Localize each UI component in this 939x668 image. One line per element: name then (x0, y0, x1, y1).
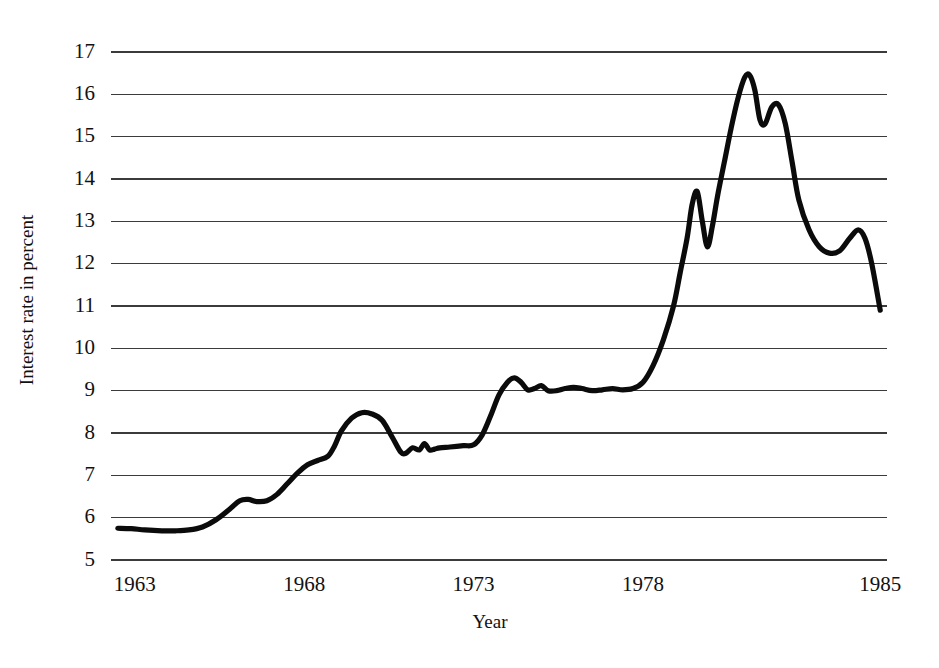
y-axis-title: Interest rate in percent (16, 214, 37, 385)
y-axis-tick-label: 14 (74, 166, 96, 190)
y-axis-tick-label: 8 (85, 420, 96, 444)
y-axis-tick-label: 5 (85, 547, 96, 571)
interest-rate-line-chart: 567891011121314151617 196319681973197819… (0, 0, 939, 668)
y-axis-tick-label: 6 (85, 504, 96, 528)
y-axis-tick-label: 16 (74, 81, 95, 105)
chart-container: 567891011121314151617 196319681973197819… (0, 0, 939, 668)
x-axis-tick-label: 1985 (859, 572, 901, 596)
x-axis-tick-label: 1968 (283, 572, 325, 596)
y-axis-tick-label: 7 (85, 462, 96, 486)
y-axis-tick-labels: 567891011121314151617 (74, 39, 96, 571)
x-axis-tick-label: 1978 (622, 572, 664, 596)
y-axis-tick-label: 9 (85, 377, 96, 401)
y-axis-tick-label: 15 (74, 123, 95, 147)
gridlines (111, 52, 887, 560)
x-axis-title: Year (472, 611, 508, 632)
y-axis-tick-label: 13 (74, 208, 95, 232)
y-axis-tick-label: 10 (74, 335, 95, 359)
interest-rate-series-line (118, 74, 880, 531)
x-axis-tick-label: 1963 (114, 572, 156, 596)
y-axis-tick-label: 17 (74, 39, 95, 63)
y-axis-tick-label: 12 (74, 250, 95, 274)
y-axis-tick-label: 11 (75, 293, 95, 317)
x-axis-tick-label: 1973 (453, 572, 495, 596)
x-axis-tick-labels: 19631968197319781985 (114, 572, 902, 596)
